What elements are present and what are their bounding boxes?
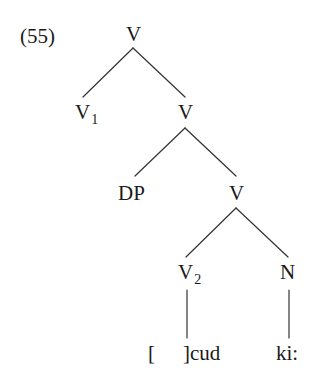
node-label: V	[178, 260, 193, 284]
node-n: N	[280, 262, 295, 283]
branch-v-to-dp	[135, 128, 185, 176]
node-v1: V1	[75, 102, 98, 127]
leaf-verb-root: ]cud	[183, 343, 220, 364]
node-subscript: 2	[194, 272, 201, 287]
node-label: V	[75, 100, 90, 124]
leaf-open-bracket: [	[148, 343, 155, 364]
node-label: V	[178, 100, 193, 124]
tree-branches	[0, 0, 323, 376]
node-root-v: V	[126, 24, 141, 45]
branch-root-to-v	[133, 48, 185, 97]
branch-v-to-v2	[186, 208, 236, 257]
node-label: DP	[118, 181, 145, 205]
leaf-noun: ki:	[276, 343, 298, 364]
node-dp: DP	[118, 183, 145, 204]
branch-v-to-v	[185, 128, 236, 176]
node-v-intermediate: V	[178, 102, 193, 123]
node-label: V	[126, 22, 141, 46]
example-number: (55)	[20, 26, 55, 47]
syntax-tree-figure: (55) V V1 V DP V V2 N [ ]cud ki:	[0, 0, 323, 376]
node-subscript: 1	[91, 112, 98, 127]
branch-root-to-v1	[83, 48, 133, 97]
branch-v-to-n	[236, 208, 288, 257]
node-v-lower: V	[229, 183, 244, 204]
node-label: N	[280, 260, 295, 284]
node-v2: V2	[178, 262, 201, 287]
node-label: V	[229, 181, 244, 205]
